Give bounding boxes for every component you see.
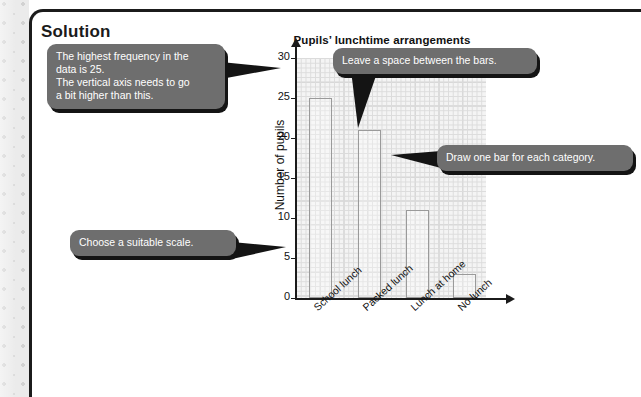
y-tick-label: 30 [278, 51, 290, 62]
callout-text: Draw one bar for each category. [437, 145, 633, 171]
callout-draw-one-bar: Draw one bar for each category. [437, 145, 633, 171]
x-axis-arrow-icon [506, 294, 515, 304]
decorative-left-margin [0, 0, 29, 397]
callout-text: The highest frequency in the data is 25.… [47, 44, 225, 109]
y-tick [291, 58, 296, 59]
y-tick [291, 178, 296, 179]
y-axis-line [295, 44, 297, 299]
y-tick-label: 20 [278, 131, 290, 142]
callout-tail [221, 62, 281, 79]
bar [309, 98, 332, 298]
plot-area: Number of pupils 051015202530 School lun… [296, 58, 486, 298]
callout-highest-frequency: The highest frequency in the data is 25.… [47, 44, 225, 109]
y-tick-label: 25 [278, 91, 290, 102]
margin-gradient-overlay [0, 0, 29, 397]
y-tick [291, 258, 296, 259]
callout-text: Leave a space between the bars. [333, 48, 537, 74]
y-tick-label: 15 [278, 171, 290, 182]
page-title: Solution [41, 22, 111, 42]
callout-tail [391, 151, 441, 168]
y-tick [291, 98, 296, 99]
y-tick [291, 218, 296, 219]
chart-title: Pupils’ lunchtime arrangements [237, 34, 527, 46]
callout-leave-space: Leave a space between the bars. [333, 48, 537, 74]
y-tick-label: 0 [284, 291, 290, 302]
y-tick-label: 10 [278, 211, 290, 222]
y-tick [291, 298, 296, 299]
callout-choose-scale: Choose a suitable scale. [70, 230, 236, 256]
callout-text: Choose a suitable scale. [70, 230, 236, 256]
y-axis-arrow-icon [291, 38, 301, 47]
bar-chart: Pupils’ lunchtime arrangements Number of… [237, 34, 537, 374]
solution-panel: Solution Pupils’ lunchtime arrangements … [29, 9, 641, 397]
callout-tail [232, 242, 286, 259]
bar [406, 210, 429, 298]
callout-tail [351, 70, 378, 128]
y-tick [291, 138, 296, 139]
